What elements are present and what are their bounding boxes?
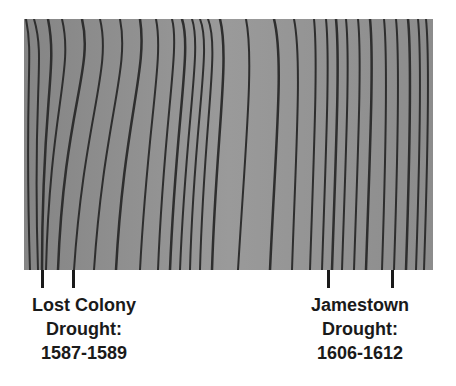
jamestown-subtitle: Drought:: [300, 317, 420, 341]
jamestown-years: 1606-1612: [300, 341, 420, 365]
lost-colony-years: 1587-1589: [24, 341, 144, 365]
lost-colony-tick-start: [41, 270, 44, 288]
tree-rings-graphic: [24, 19, 433, 270]
jamestown-title: Jamestown: [300, 293, 420, 317]
lost-colony-title: Lost Colony: [24, 293, 144, 317]
jamestown-label: Jamestown Drought: 1606-1612: [300, 293, 420, 365]
lost-colony-label: Lost Colony Drought: 1587-1589: [24, 293, 144, 365]
tree-ring-photo: [24, 19, 433, 270]
jamestown-tick-start: [327, 270, 330, 288]
lost-colony-tick-end: [72, 270, 75, 288]
jamestown-tick-end: [391, 270, 394, 288]
lost-colony-subtitle: Drought:: [24, 317, 144, 341]
